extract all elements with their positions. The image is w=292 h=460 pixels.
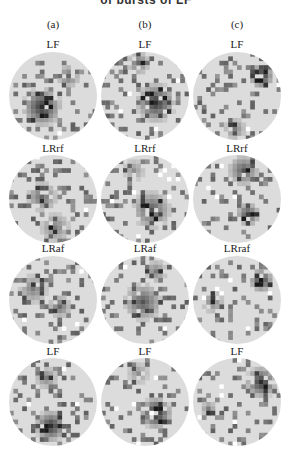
topomap-lf-c bbox=[193, 52, 281, 140]
panel-label: LRrf bbox=[207, 142, 267, 154]
panel-label: LRraf bbox=[207, 242, 267, 254]
topomap-lf-b bbox=[101, 358, 189, 446]
panel-label: LRaf bbox=[115, 242, 175, 254]
panel-label: LRaf bbox=[23, 242, 83, 254]
panel-label: LF bbox=[23, 345, 83, 357]
column-header-a: (a) bbox=[33, 18, 73, 30]
column-header-b: (b) bbox=[125, 18, 165, 30]
panel-label: LF bbox=[207, 38, 267, 50]
topomap-lf-a bbox=[9, 358, 97, 446]
topomap-lf-c bbox=[193, 358, 281, 446]
panel-label: LF bbox=[115, 38, 175, 50]
panel-label: LF bbox=[207, 345, 267, 357]
panel-label: LRrf bbox=[23, 142, 83, 154]
topomap-lraf-a bbox=[9, 256, 97, 344]
topomap-lrrf-a bbox=[9, 155, 97, 243]
topomap-lrrf-c bbox=[193, 155, 281, 243]
topomap-lf-a bbox=[9, 52, 97, 140]
panel-label: LF bbox=[23, 38, 83, 50]
panel-label: LF bbox=[115, 345, 175, 357]
topomap-lf-b bbox=[101, 52, 189, 140]
topomap-lrrf-b bbox=[101, 155, 189, 243]
top-caption-cropped: of bursts of LF bbox=[0, 0, 292, 7]
topomap-lraf-b bbox=[101, 256, 189, 344]
panel-label: LRrf bbox=[115, 142, 175, 154]
topomap-lrraf-c bbox=[193, 256, 281, 344]
column-header-c: (c) bbox=[217, 18, 257, 30]
